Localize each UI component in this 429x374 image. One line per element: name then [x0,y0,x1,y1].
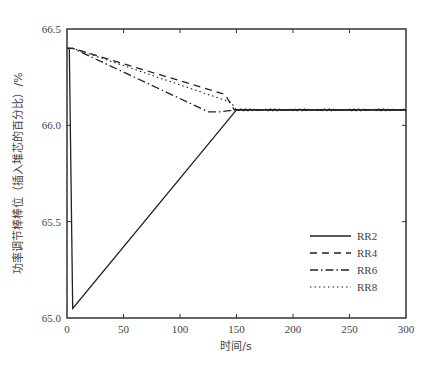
legend-label-rr6: RR6 [357,264,378,276]
series-rr8 [67,48,406,110]
line-chart: 050100150200250300 65.065.566.066.5 RR2R… [0,0,429,374]
legend-label-rr2: RR2 [357,230,377,242]
plot-frame [67,29,406,318]
x-tick-label: 100 [172,323,189,335]
x-tick-label: 250 [341,323,358,335]
x-axis-title: 时间/s [220,340,252,353]
x-tick-label: 50 [118,323,130,335]
x-tick-label: 300 [398,323,415,335]
y-tick-label: 65.5 [42,216,62,228]
x-tick-label: 0 [64,323,70,335]
series-rr2 [67,48,406,308]
series-lines [67,48,406,308]
y-tick-label: 66.5 [42,23,62,35]
x-tick-label: 150 [228,323,245,335]
y-tick-label: 66.0 [42,119,62,131]
legend-label-rr8: RR8 [357,281,378,293]
legend: RR2RR4RR6RR8 [310,230,378,293]
y-tick-label: 65.0 [42,312,62,324]
series-rr4 [67,48,406,110]
legend-label-rr4: RR4 [357,247,378,259]
series-rr6 [67,48,406,112]
y-axis-title: 功率调节棒棒位（插入堆芯的百分比）/% [11,72,25,273]
x-tick-label: 200 [285,323,302,335]
